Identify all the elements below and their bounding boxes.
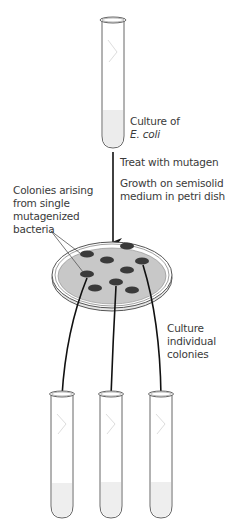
label-line: individual xyxy=(167,335,216,348)
bacterial-colony xyxy=(80,250,94,257)
label-line: from single xyxy=(13,197,93,210)
cultured-test-tube xyxy=(99,391,124,518)
label-line: Treat with mutagen xyxy=(120,156,219,169)
label-mutagen: Treat with mutagen xyxy=(120,156,219,169)
bacterial-colony xyxy=(135,257,149,264)
label-source-culture: Culture of E. coli xyxy=(130,115,180,141)
diagram-canvas xyxy=(0,0,228,524)
source-test-tube xyxy=(100,17,126,148)
agar-medium xyxy=(58,248,166,304)
bacterial-colony xyxy=(109,278,123,285)
bacterial-colony xyxy=(120,242,134,249)
label-growth: Growth on semisolid medium in petri dish xyxy=(120,177,225,203)
label-line: E. coli xyxy=(130,128,180,141)
culture-liquid xyxy=(103,110,123,147)
cultured-test-tube xyxy=(149,391,174,518)
label-colonies-note: Colonies arising from single mutagenized… xyxy=(13,184,93,236)
label-line: colonies xyxy=(167,348,216,361)
bacterial-colony xyxy=(100,256,114,263)
label-line: Growth on semisolid xyxy=(120,177,225,190)
petri-dish xyxy=(52,242,172,311)
cultured-test-tube xyxy=(50,391,75,518)
bacterial-colony xyxy=(120,266,134,273)
label-line: bacteria xyxy=(13,223,93,236)
label-line: Colonies arising xyxy=(13,184,93,197)
bacterial-colony xyxy=(88,284,102,291)
label-line: Culture xyxy=(167,322,216,335)
bacterial-colony xyxy=(125,286,139,293)
label-line: mutagenized xyxy=(13,210,93,223)
label-line: medium in petri dish xyxy=(120,190,225,203)
label-line: Culture of xyxy=(130,115,180,128)
cultured-tubes xyxy=(50,391,174,518)
label-culture-colonies: Culture individual colonies xyxy=(167,322,216,361)
